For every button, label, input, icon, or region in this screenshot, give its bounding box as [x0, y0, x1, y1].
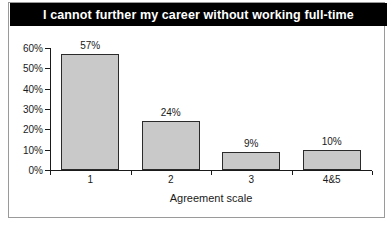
- bar-category-4and5[interactable]: [303, 150, 361, 170]
- chart-figure: I cannot further my career without worki…: [0, 0, 391, 226]
- y-axis-labels: 60% 50% 40% 30% 20% 10% 0%: [0, 0, 43, 226]
- bar-value-1: 57%: [61, 40, 119, 51]
- y-axis-label-20: 20%: [3, 124, 43, 135]
- y-axis-label-60: 60%: [3, 43, 43, 54]
- y-axis-label-0: 0%: [3, 165, 43, 176]
- x-axis-label-2: 2: [142, 174, 200, 185]
- x-axis-tick-0: [50, 171, 51, 175]
- x-axis-label-1: 1: [61, 174, 119, 185]
- x-axis-tick-4: [372, 171, 373, 175]
- bar-value-3: 9%: [222, 138, 280, 149]
- bar-category-2[interactable]: [142, 121, 200, 170]
- x-axis-label-4and5: 4&5: [303, 174, 361, 185]
- x-axis-tick-2: [211, 171, 212, 175]
- x-axis-tick-3: [292, 171, 293, 175]
- y-axis-label-40: 40%: [3, 83, 43, 94]
- x-axis-label-3: 3: [222, 174, 280, 185]
- chart-title-banner: I cannot further my career without worki…: [10, 3, 387, 26]
- plot-area: [50, 48, 372, 170]
- y-axis-label-10: 10%: [3, 144, 43, 155]
- x-axis-title: Agreement scale: [50, 192, 372, 204]
- bar-category-1[interactable]: [61, 54, 119, 170]
- y-axis-label-50: 50%: [3, 63, 43, 74]
- bar-value-4and5: 10%: [303, 136, 361, 147]
- bar-category-3[interactable]: [222, 152, 280, 170]
- y-axis-label-30: 30%: [3, 104, 43, 115]
- bar-value-2: 24%: [142, 107, 200, 118]
- x-axis-tick-1: [131, 171, 132, 175]
- chart-title: I cannot further my career without worki…: [43, 8, 354, 22]
